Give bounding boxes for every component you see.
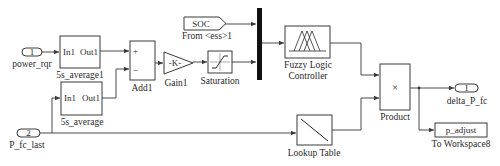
to-workspace-label: To Workspace8 <box>432 139 491 149</box>
mux-block[interactable] <box>257 8 262 80</box>
wire-avg-to-add[interactable] <box>102 69 129 98</box>
wire-lookup-to-product[interactable] <box>332 98 379 130</box>
sum-minus-sign: − <box>133 65 138 75</box>
wire-product-to-workspace[interactable] <box>419 88 434 130</box>
inport-1-label: power_rqr <box>12 59 52 69</box>
simulink-canvas: 1 power_rqr 2 P_fc_last In1 Out1 5s_aver… <box>0 0 500 166</box>
gain-value: -K- <box>169 58 182 68</box>
outport-number: 1 <box>464 83 469 93</box>
to-workspace-block[interactable]: p_adjust To Workspace8 <box>432 123 491 149</box>
subsystem-5s-average1[interactable]: In1 Out1 5s_average1 <box>56 36 104 80</box>
port-in1-label: In1 <box>63 47 75 57</box>
inport-power-rqr[interactable]: 1 power_rqr <box>12 47 52 69</box>
wire-fuzzy-to-product[interactable] <box>330 43 379 75</box>
fuzzy-logic-controller[interactable]: Fuzzy Logic Controller <box>284 26 332 81</box>
lookup-table-block[interactable]: Lookup Table <box>288 115 341 158</box>
product-block[interactable]: × Product <box>380 64 410 122</box>
sum-block-label: Add1 <box>131 83 152 93</box>
lookup-table-label: Lookup Table <box>288 148 341 158</box>
from-block-soc[interactable]: SOC From <ess>1 <box>182 17 232 41</box>
subsystem-5s-average1-label: 5s_average1 <box>56 70 104 80</box>
port-out1-label: Out1 <box>80 47 98 57</box>
gain-block[interactable]: -K- Gain1 <box>164 52 193 88</box>
outport-label: delta_P_fc <box>447 96 488 106</box>
inport-2-number: 2 <box>26 128 31 138</box>
saturation-block[interactable]: Saturation <box>200 51 239 86</box>
fuzzy-label-line1: Fuzzy Logic <box>284 60 332 70</box>
saturation-label: Saturation <box>200 76 239 86</box>
port-in1-label: In1 <box>64 93 76 103</box>
sum-plus-sign: + <box>133 46 138 56</box>
gain-block-label: Gain1 <box>164 78 187 88</box>
wire-pfc-to-avg[interactable] <box>52 98 60 133</box>
multiply-icon: × <box>392 82 398 93</box>
from-block-label: From <ess>1 <box>182 31 232 41</box>
port-out1-label: Out1 <box>82 93 100 103</box>
inport-1-number: 1 <box>30 47 35 57</box>
sum-block-add1[interactable]: + − Add1 <box>130 41 155 93</box>
inport-p-fc-last[interactable]: 2 P_fc_last <box>9 128 45 150</box>
fuzzy-label-line2: Controller <box>288 71 328 81</box>
workspace-variable: p_adjust <box>446 125 477 135</box>
subsystem-5s-average-label: 5s_average <box>61 117 104 127</box>
subsystem-5s-average[interactable]: In1 Out1 5s_average <box>61 82 104 127</box>
branch-point <box>418 87 421 90</box>
product-label: Product <box>380 112 410 122</box>
outport-delta-p-fc[interactable]: 1 delta_P_fc <box>447 83 488 106</box>
from-tag: SOC <box>192 19 210 29</box>
inport-2-label: P_fc_last <box>9 140 45 150</box>
